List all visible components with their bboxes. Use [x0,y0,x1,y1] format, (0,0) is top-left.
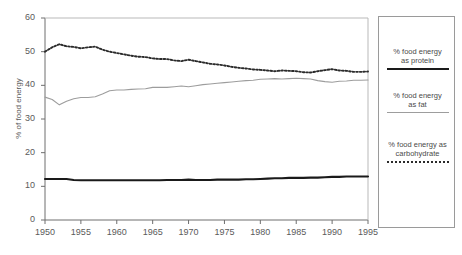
x-tick-label: 1990 [312,227,352,237]
chart-figure: % of food energy 0102030405060 195019551… [0,0,462,255]
data-series-layer [45,44,368,180]
series-line [45,78,368,105]
series-line [45,177,368,181]
x-tick-label: 1995 [348,227,388,237]
legend-swatch-fat-line-icon [387,112,449,113]
legend-swatch-protein-line-icon [387,68,449,70]
y-axis-ticks [41,18,45,220]
y-tick-label: 0 [9,214,35,224]
x-tick-label: 1955 [61,227,101,237]
x-tick-label: 1985 [276,227,316,237]
x-tick-label: 1975 [204,227,244,237]
x-tick-label: 1965 [133,227,173,237]
y-tick-label: 30 [9,113,35,123]
legend-label-carbohydrate-line1: % food energy as [383,140,452,149]
y-tick-label: 40 [9,79,35,89]
legend-item-protein[interactable]: % food energy as protein [383,47,452,70]
legend-item-fat[interactable]: % food energy as fat [383,91,452,113]
legend-label-fat-line1: % food energy [383,91,452,100]
legend-label-protein-line1: % food energy [383,47,452,56]
x-axis-ticks [45,220,368,224]
legend-swatch-carbohydrate-dotted-icon [387,161,449,163]
legend-label-protein-line2: as protein [383,56,452,65]
series-line [45,44,368,72]
legend-label-carbohydrate-line2: carbohydrate [383,149,452,158]
legend-label-fat-line2: as fat [383,100,452,109]
y-tick-label: 20 [9,147,35,157]
x-tick-label: 1950 [25,227,65,237]
y-tick-label: 50 [9,46,35,56]
y-tick-label: 60 [9,12,35,22]
x-tick-label: 1980 [240,227,280,237]
x-tick-label: 1970 [169,227,209,237]
x-tick-label: 1960 [97,227,137,237]
legend-item-carbohydrate[interactable]: % food energy as carbohydrate [383,140,452,163]
chart-legend: % food energy as protein % food energy a… [378,16,455,228]
y-tick-label: 10 [9,180,35,190]
